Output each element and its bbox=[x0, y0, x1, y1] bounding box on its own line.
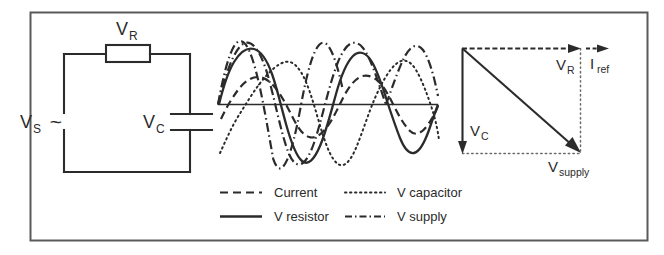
ac-source-symbol: ~ bbox=[50, 110, 62, 133]
legend-label-current: Current bbox=[274, 185, 318, 200]
phasor-iref-label-main: I bbox=[590, 55, 594, 72]
capacitor-label-sub: C bbox=[156, 122, 165, 136]
resistor-body bbox=[106, 45, 150, 62]
source-label-main: V bbox=[20, 112, 32, 132]
legend-label-v-resistor: V resistor bbox=[274, 209, 330, 224]
phasor-vc-label-sub: C bbox=[481, 130, 489, 142]
phasor-vc-label-main: V bbox=[470, 122, 480, 139]
resistor-label-sub: R bbox=[129, 29, 138, 43]
phasor-iref-label-sub: ref bbox=[597, 63, 609, 75]
phasor-vsupply-label-sub: supply bbox=[559, 166, 590, 178]
phasor-vsupply-label-main: V bbox=[548, 158, 558, 175]
capacitor-label-main: V bbox=[143, 112, 155, 132]
resistor-label-main: V bbox=[116, 19, 128, 39]
figure-canvas: ~ V S V R V C bbox=[0, 0, 664, 255]
legend-label-v-capacitor: V capacitor bbox=[397, 185, 463, 200]
phasor-vr-label-sub: R bbox=[567, 64, 575, 76]
phasor-vr-label-main: V bbox=[556, 56, 566, 73]
source-label-sub: S bbox=[33, 122, 41, 136]
legend-label-v-supply: V supply bbox=[397, 209, 447, 224]
rc-circuit-figure: ~ V S V R V C bbox=[0, 0, 664, 255]
